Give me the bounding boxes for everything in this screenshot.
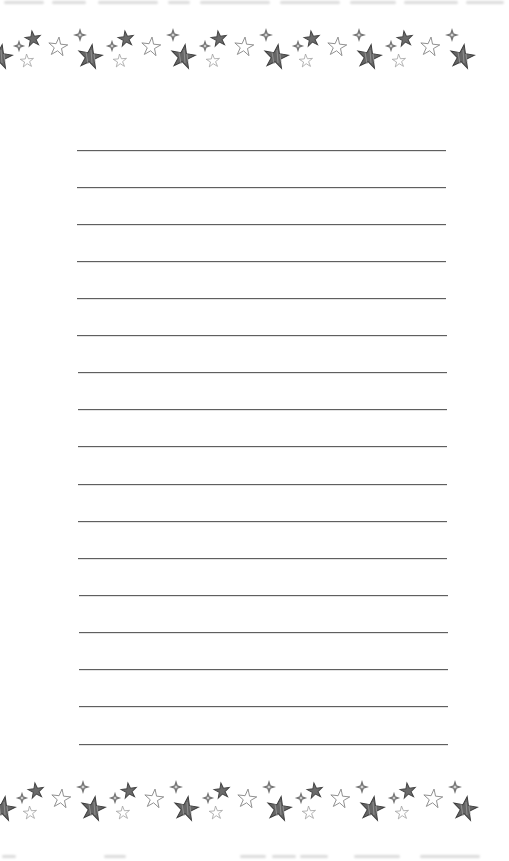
ruled-line — [78, 372, 447, 373]
ruled-line — [79, 595, 448, 596]
ruled-lines-area — [0, 0, 509, 861]
ruled-line — [79, 706, 448, 707]
ruled-line — [79, 744, 448, 745]
ruled-line — [77, 150, 446, 151]
ruled-line — [77, 335, 447, 336]
ruled-line — [78, 409, 447, 410]
ruled-line — [77, 187, 446, 188]
ruled-line — [77, 298, 446, 299]
ruled-line — [77, 224, 446, 225]
bottom-star-border — [0, 767, 509, 827]
ruled-line — [78, 521, 447, 522]
ruled-line — [77, 261, 446, 262]
ruled-line — [78, 484, 447, 485]
ruled-line — [79, 669, 448, 670]
ruled-line — [78, 558, 447, 559]
ruled-line — [79, 632, 448, 633]
ruled-line — [78, 446, 447, 447]
